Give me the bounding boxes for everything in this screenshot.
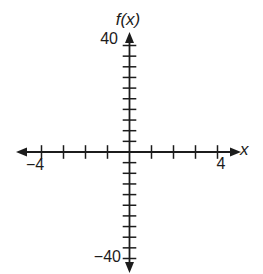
x-axis-title: x <box>240 141 262 159</box>
y-axis-min-tick-label: −40 <box>71 249 121 265</box>
y-axis-max-tick-label: 40 <box>78 31 118 47</box>
coordinate-plane-figure: f(x) 40 −40 −4 4 x <box>0 0 263 274</box>
x-axis-min-tick-label: −4 <box>15 157 55 173</box>
axes-canvas <box>0 0 263 274</box>
y-axis-title: f(x) <box>106 11 150 29</box>
y-axis-down-arrow-icon <box>125 262 134 273</box>
y-axis-up-arrow-icon <box>125 32 134 43</box>
x-axis-max-tick-label: 4 <box>201 156 241 172</box>
